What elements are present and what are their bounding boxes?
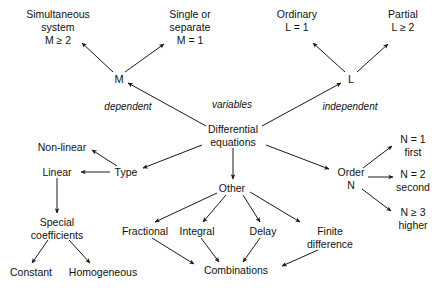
node-root-line2: equations	[210, 136, 256, 148]
node-l-label: L	[348, 73, 354, 85]
edge-label-dependent: dependent	[104, 101, 152, 112]
node-homogeneous-label: Homogeneous	[69, 266, 137, 278]
node-order-line2: N	[347, 179, 355, 191]
edge-label-independent: independent	[322, 101, 378, 112]
edge-label-variables: variables	[212, 99, 252, 110]
differential-equations-diagram: Simultaneous system M ≥ 2 Single or sepa…	[0, 0, 439, 295]
edge-special-to-constant	[32, 240, 48, 263]
edge-root-to-order	[266, 145, 329, 169]
node-special-line2: coefficients	[31, 229, 83, 241]
node-root-line1: Differential	[208, 123, 258, 135]
node-fractional-label: Fractional	[122, 225, 168, 237]
node-higher-line1: N ≥ 3	[400, 206, 425, 218]
edge-special-to-homogeneous	[69, 240, 90, 263]
edge-m-to-single	[125, 44, 164, 72]
node-nonlinear-label: Non-linear	[38, 141, 87, 153]
node-m-label: M	[114, 73, 123, 85]
node-finite-difference-line2: difference	[307, 238, 353, 250]
node-integral-label: Integral	[179, 225, 214, 237]
node-second-line2: second	[396, 181, 430, 193]
edge-other-to-delay	[243, 195, 260, 222]
edge-root-to-type	[143, 145, 202, 168]
node-delay-label: Delay	[250, 225, 278, 237]
diagram-canvas: Simultaneous system M ≥ 2 Single or sepa…	[0, 0, 439, 295]
edge-finite-difference-to-combinations	[282, 250, 318, 266]
node-simultaneous-line1: Simultaneous	[26, 8, 90, 20]
node-constant-label: Constant	[10, 266, 52, 278]
edge-order-to-higher	[362, 189, 391, 211]
edge-l-to-partial	[357, 44, 388, 72]
edge-other-to-fractional	[155, 193, 217, 222]
node-finite-difference-line1: Finite	[317, 225, 343, 237]
node-single-line2: separate	[170, 21, 211, 33]
node-single-line3: M = 1	[177, 34, 204, 46]
edge-l-to-ordinary	[313, 43, 345, 72]
edge-type-to-nonlinear	[92, 150, 117, 166]
node-special-line1: Special	[40, 216, 74, 228]
edge-integral-to-combinations	[201, 238, 219, 262]
edge-delay-to-combinations	[243, 238, 260, 262]
node-higher-line2: higher	[398, 219, 428, 231]
node-simultaneous-line2: system	[41, 21, 75, 33]
node-single-line1: Single or	[169, 8, 211, 20]
node-simultaneous-line3: M ≥ 2	[45, 34, 71, 46]
node-first-line2: first	[405, 146, 422, 158]
nodes-group: Simultaneous system M ≥ 2 Single or sepa…	[10, 8, 430, 278]
node-order-line1: Order	[338, 166, 365, 178]
node-partial-line1: Partial	[388, 8, 418, 20]
node-linear-label: Linear	[42, 166, 72, 178]
edge-other-to-integral	[203, 195, 226, 222]
node-ordinary-line1: Ordinary	[277, 8, 318, 20]
edge-order-to-first	[363, 146, 392, 168]
node-other-label: Other	[219, 182, 246, 194]
edge-fractional-to-combinations	[152, 238, 194, 264]
node-partial-line2: L ≥ 2	[392, 21, 415, 33]
node-ordinary-line2: L = 1	[285, 21, 308, 33]
node-first-line1: N = 1	[400, 133, 426, 145]
edge-m-to-simultaneous	[82, 43, 113, 72]
node-combinations-label: Combinations	[204, 264, 268, 276]
node-second-line1: N = 2	[400, 168, 426, 180]
node-type-label: Type	[115, 166, 138, 178]
